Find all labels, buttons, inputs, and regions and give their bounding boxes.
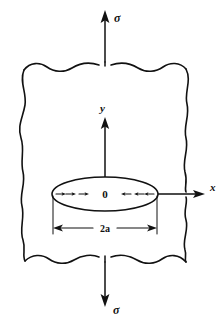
plate-edge-right-lower xyxy=(184,197,187,262)
load-arrow-top xyxy=(101,10,110,62)
origin-label: 0 xyxy=(102,188,108,200)
plate-edge-bottom-left xyxy=(25,255,99,263)
plate-edge-top-right xyxy=(111,63,186,71)
stress-label-bottom: σ xyxy=(113,303,120,317)
plate-edge-right-upper xyxy=(184,69,188,192)
x-axis xyxy=(155,190,205,198)
diagram-canvas: σ y x xyxy=(0,0,224,321)
fracture-mechanics-figure: σ y x xyxy=(0,0,224,321)
stress-label-top: σ xyxy=(114,11,121,25)
plate-edge-left xyxy=(20,70,26,261)
crack-length-label: 2a xyxy=(100,223,110,234)
plate-edge-top-left xyxy=(24,63,99,71)
plate-edge-bottom-right xyxy=(111,255,186,263)
x-axis-label: x xyxy=(209,181,216,193)
y-axis-label: y xyxy=(98,102,105,114)
y-axis xyxy=(101,117,109,177)
load-arrow-bottom xyxy=(101,262,110,307)
